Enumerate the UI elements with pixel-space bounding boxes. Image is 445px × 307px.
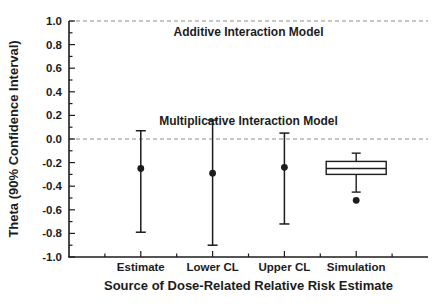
- outlier-marker: [353, 197, 360, 204]
- annotation-multiplicative-interaction-model: Multiplicative Interaction Model: [69, 115, 428, 128]
- point-estimate-marker: [137, 165, 144, 172]
- y-axis-tick-label: 1.0: [20, 13, 62, 29]
- x-axis-title: Source of Dose-Related Relative Risk Est…: [69, 278, 428, 293]
- y-axis-tick-label: -0.6: [20, 202, 62, 218]
- y-axis-tick-label: 0.0: [20, 131, 62, 147]
- y-axis-tick-label: -0.2: [20, 155, 62, 171]
- figure: Theta (90% Confidence Interval) Source o…: [0, 0, 445, 307]
- x-category-label: Simulation: [306, 261, 406, 273]
- y-axis-tick-label: -0.8: [20, 225, 62, 241]
- y-axis-tick-label: 0.6: [20, 60, 62, 76]
- y-axis-tick-label: 0.4: [20, 84, 62, 100]
- y-axis-tick-label: 0.2: [20, 107, 62, 123]
- point-estimate-marker: [281, 164, 288, 171]
- y-axis-tick-label: -1.0: [20, 249, 62, 265]
- point-estimate-marker: [209, 170, 216, 177]
- y-axis-tick-label: 0.8: [20, 37, 62, 53]
- annotation-additive-interaction-model: Additive Interaction Model: [69, 26, 428, 39]
- y-axis-tick-label: -0.4: [20, 178, 62, 194]
